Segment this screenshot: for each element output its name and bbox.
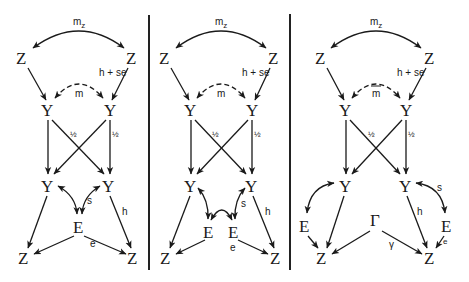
edge-y2l-e: [58, 186, 77, 214]
edge-y2l-el: [307, 183, 334, 213]
edge-y2l-zbl: [28, 196, 47, 248]
path-diagram: mz Z Z h + se m Y Y ½ ½ Y Y s E h e Z Z: [0, 0, 469, 282]
node-e-right: E: [441, 217, 451, 236]
node-e: E: [73, 218, 83, 237]
edge-mz: [331, 31, 421, 48]
node-y1-right: Y: [400, 101, 412, 120]
label-h: h: [417, 206, 423, 217]
node-z-bottom-right: Z: [424, 249, 434, 268]
label-h-se: h + se: [242, 67, 270, 78]
node-z-top-right: Z: [126, 49, 136, 68]
label-h-se: h + se: [99, 67, 127, 78]
label-half-left: ½: [212, 130, 219, 139]
label-e: e: [443, 237, 448, 246]
edge-y1l-y2r: [52, 120, 104, 174]
node-e-right: E: [228, 223, 238, 242]
label-m: m: [75, 88, 83, 99]
node-y2-right: Y: [399, 177, 411, 196]
node-gamma: Γ: [370, 211, 380, 230]
edge-y2l-zbl: [170, 196, 190, 248]
label-half-right: ½: [254, 130, 261, 139]
edge-er-zbr: [238, 240, 268, 254]
label-s: s: [87, 195, 92, 206]
label-e: e: [230, 242, 236, 253]
label-m: m: [372, 88, 380, 99]
node-z-bottom-right: Z: [127, 249, 137, 268]
label-half-left: ½: [70, 130, 77, 139]
node-y1-left: Y: [184, 101, 196, 120]
node-y2-left: Y: [184, 177, 196, 196]
edge-mz: [33, 31, 124, 48]
label-e: e: [90, 238, 96, 249]
edge-y2l-el: [198, 188, 208, 219]
edge-y2l-zbl: [327, 196, 344, 248]
label-m: m: [217, 88, 225, 99]
node-y2-left: Y: [41, 177, 53, 196]
node-y1-left: Y: [339, 101, 351, 120]
node-z-bottom-left: Z: [316, 249, 326, 268]
edge-z-y1-left: [28, 68, 46, 100]
edge-y1r-y2l: [197, 120, 248, 174]
label-h: h: [122, 206, 128, 217]
node-z-top-left: Z: [16, 49, 26, 68]
edge-el-zbl: [308, 236, 318, 248]
edge-gamma-zbr: [382, 231, 422, 254]
node-e-left: E: [299, 217, 309, 236]
edge-y2r-zbr: [407, 196, 427, 248]
edge-y1r-y2l: [352, 120, 402, 174]
panel-3: mz Z Z h + se m Y Y ½ ½ Y Y s E E h e Γ …: [299, 16, 451, 268]
node-y2-left: Y: [339, 177, 351, 196]
edge-z-y1-left: [171, 68, 189, 100]
label-h: h: [265, 206, 271, 217]
label-mz: mz: [370, 16, 382, 30]
node-z-bottom-left: Z: [18, 249, 28, 268]
label-half-right: ½: [112, 130, 119, 139]
edge-el-er: [211, 210, 232, 220]
node-z-top-left: Z: [159, 49, 169, 68]
label-half-left: ½: [368, 130, 375, 139]
node-e-left: E: [203, 223, 213, 242]
label-s: s: [241, 198, 246, 209]
label-half-right: ½: [408, 130, 415, 139]
node-z-top-right: Z: [268, 49, 278, 68]
edge-el-zbl: [176, 240, 205, 254]
edge-y1l-y2r: [350, 120, 400, 174]
edge-gamma-zbl: [332, 231, 370, 254]
node-y1-right: Y: [246, 101, 258, 120]
label-mz: mz: [73, 16, 85, 30]
node-z-top-right: Z: [424, 49, 434, 68]
edge-z-y1-left: [327, 68, 344, 100]
edge-mz: [176, 31, 266, 48]
node-y2-right: Y: [102, 177, 114, 196]
node-z-bottom-left: Z: [160, 249, 170, 268]
label-h-se: h + se: [397, 67, 425, 78]
node-z-bottom-right: Z: [270, 249, 280, 268]
node-z-top-left: Z: [315, 49, 325, 68]
label-mz: mz: [215, 16, 227, 30]
edge-e-zbl: [34, 236, 74, 254]
edge-y1r-y2l: [54, 120, 106, 174]
label-gamma: γ: [389, 239, 394, 250]
panel-1: mz Z Z h + se m Y Y ½ ½ Y Y s E h e Z Z: [16, 16, 137, 268]
node-y1-right: Y: [104, 101, 116, 120]
node-y2-right: Y: [245, 177, 257, 196]
edge-y2r-zbr: [253, 196, 274, 248]
panel-2: mz Z Z h + se m Y Y ½ ½ Y Y s E E h e Z …: [159, 16, 280, 268]
label-s: s: [437, 182, 442, 193]
edge-y1l-y2r: [195, 120, 246, 174]
edge-y2r-zbr: [110, 196, 131, 248]
node-y1-left: Y: [41, 101, 53, 120]
